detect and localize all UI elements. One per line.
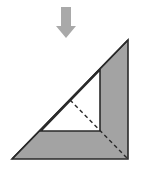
arrow-down-icon [56,7,76,38]
fold-diagram [0,0,143,173]
